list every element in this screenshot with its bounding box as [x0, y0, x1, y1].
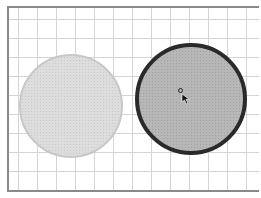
left-circle-shape[interactable] [19, 54, 123, 158]
mouse-cursor-icon [181, 93, 191, 105]
right-circle-shape-selected[interactable] [135, 43, 247, 155]
drawing-canvas[interactable] [7, 6, 259, 192]
